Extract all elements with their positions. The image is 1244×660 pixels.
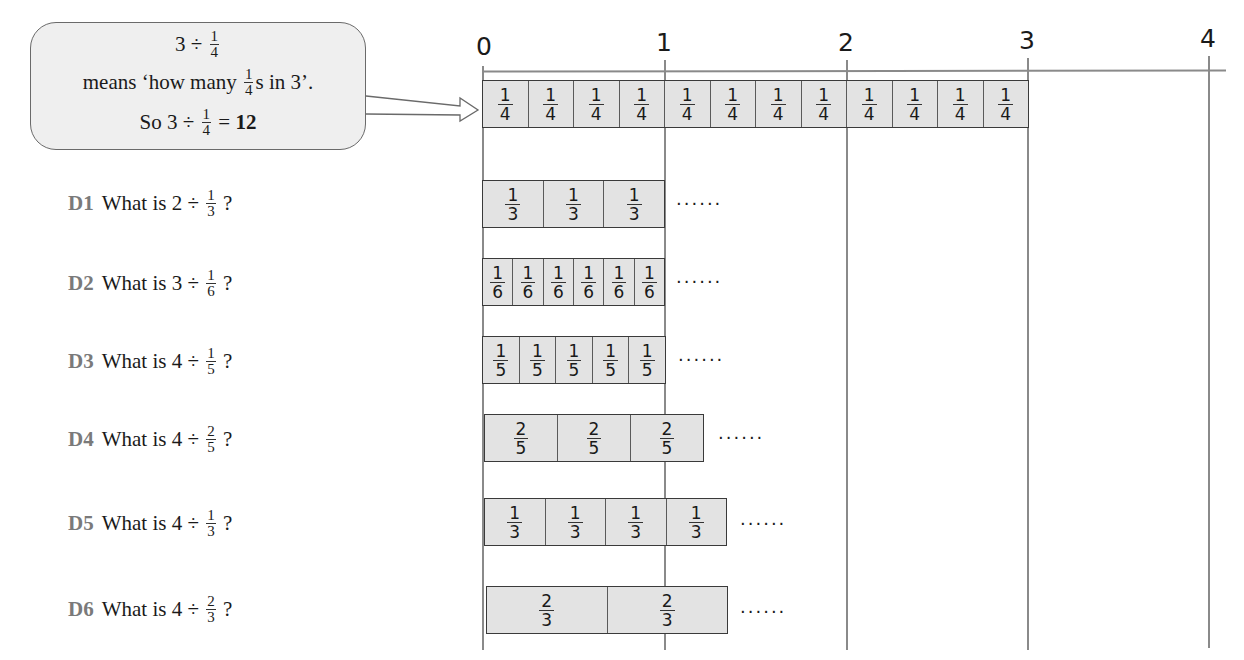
frac-num: 1 bbox=[206, 346, 216, 362]
bar-segment: 15 bbox=[519, 337, 556, 383]
number-line-axis bbox=[482, 69, 1226, 72]
question-id: D4 bbox=[68, 427, 94, 451]
callout-line-1: 3 ÷ 14 bbox=[31, 31, 365, 62]
frac-num: 1 bbox=[202, 107, 212, 123]
callout-text: means ‘how many bbox=[83, 70, 237, 94]
callout-text: s in 3’. bbox=[255, 70, 313, 94]
question-id: D3 bbox=[68, 349, 94, 373]
bar-segment: 13 bbox=[483, 181, 543, 227]
question-mark: ? bbox=[223, 349, 232, 373]
bar-segment: 16 bbox=[483, 259, 512, 305]
callout-text: 3 ÷ bbox=[175, 32, 202, 56]
fraction: 16 bbox=[206, 268, 216, 299]
tick-label-4: 4 bbox=[1200, 26, 1216, 51]
question-d2: D2What is 3 ÷ 16 ? bbox=[68, 270, 232, 301]
question-id: D2 bbox=[68, 271, 94, 295]
bar-segment: 16 bbox=[634, 259, 664, 305]
continuation-dots: ...... bbox=[740, 508, 786, 529]
example-bar: 14 14 14 14 14 14 14 14 14 14 14 14 bbox=[482, 80, 1029, 128]
bar-segment: 14 bbox=[892, 81, 938, 127]
question-mark: ? bbox=[223, 191, 232, 215]
frac-den: 4 bbox=[211, 45, 219, 60]
fraction: 23 bbox=[206, 594, 216, 625]
bar-segment: 14 bbox=[528, 81, 574, 127]
callout-text: So 3 ÷ bbox=[140, 110, 195, 134]
question-id: D6 bbox=[68, 597, 94, 621]
bar-segment: 13 bbox=[543, 181, 604, 227]
bar-segment: 16 bbox=[543, 259, 573, 305]
frac-num: 1 bbox=[206, 268, 216, 284]
gridline-3 bbox=[1027, 58, 1029, 650]
frac-den: 3 bbox=[207, 204, 215, 219]
bar-segment: 13 bbox=[666, 499, 727, 545]
bar-segment: 14 bbox=[983, 81, 1029, 127]
bar-segment: 15 bbox=[555, 337, 592, 383]
bar-d1: 13 13 13 bbox=[482, 180, 665, 228]
bar-d4: 25 25 25 bbox=[484, 414, 704, 462]
bar-segment: 14 bbox=[483, 81, 528, 127]
callout-answer: 12 bbox=[235, 110, 256, 134]
explanation-callout: 3 ÷ 14 means ‘how many 14s in 3’. So 3 ÷… bbox=[30, 22, 366, 150]
bar-segment: 23 bbox=[487, 587, 607, 633]
bar-d2: 16 16 16 16 16 16 bbox=[482, 258, 665, 306]
bar-segment: 14 bbox=[846, 81, 892, 127]
frac-den: 5 bbox=[207, 440, 215, 455]
question-mark: ? bbox=[223, 271, 232, 295]
bar-segment: 15 bbox=[628, 337, 665, 383]
question-text: What is 4 ÷ bbox=[102, 427, 199, 451]
frac-den: 3 bbox=[207, 524, 215, 539]
bar-segment: 14 bbox=[619, 81, 665, 127]
continuation-dots: ...... bbox=[678, 344, 724, 365]
bar-d5: 13 13 13 13 bbox=[484, 498, 727, 546]
frac-num: 1 bbox=[206, 188, 216, 204]
tick-label-0: 0 bbox=[476, 34, 492, 59]
fraction: 14 bbox=[210, 29, 220, 60]
continuation-dots: ...... bbox=[718, 422, 764, 443]
frac-den: 6 bbox=[207, 284, 215, 299]
bar-segment: 14 bbox=[801, 81, 847, 127]
fraction: 15 bbox=[206, 346, 216, 377]
tick-label-2: 2 bbox=[838, 30, 854, 55]
frac-den: 3 bbox=[207, 610, 215, 625]
question-d6: D6What is 4 ÷ 23 ? bbox=[68, 596, 232, 627]
question-d4: D4What is 4 ÷ 25 ? bbox=[68, 426, 232, 457]
question-text: What is 3 ÷ bbox=[102, 271, 199, 295]
bar-d6: 23 23 bbox=[486, 586, 728, 634]
bar-segment: 14 bbox=[664, 81, 710, 127]
question-text: What is 4 ÷ bbox=[102, 597, 199, 621]
bar-segment: 16 bbox=[512, 259, 542, 305]
bar-segment: 14 bbox=[755, 81, 801, 127]
tick-label-3: 3 bbox=[1019, 28, 1035, 53]
bar-segment: 23 bbox=[607, 587, 728, 633]
frac-num: 2 bbox=[206, 594, 216, 610]
gridline-4 bbox=[1208, 56, 1210, 648]
bar-segment: 13 bbox=[605, 499, 666, 545]
fraction: 13 bbox=[206, 508, 216, 539]
fraction: 14 bbox=[244, 67, 254, 98]
bar-segment: 13 bbox=[485, 499, 545, 545]
frac-den: 4 bbox=[203, 123, 211, 138]
continuation-dots: ...... bbox=[676, 266, 722, 287]
bar-segment: 14 bbox=[710, 81, 756, 127]
bar-segment: 13 bbox=[545, 499, 606, 545]
frac-num: 1 bbox=[210, 29, 220, 45]
question-d3: D3What is 4 ÷ 15 ? bbox=[68, 348, 232, 379]
bar-segment: 13 bbox=[603, 181, 664, 227]
tick-label-1: 1 bbox=[656, 30, 672, 55]
question-mark: ? bbox=[223, 427, 232, 451]
fraction: 25 bbox=[206, 424, 216, 455]
equals-sign: = bbox=[218, 110, 230, 134]
question-d1: D1What is 2 ÷ 13 ? bbox=[68, 190, 232, 221]
bar-segment: 14 bbox=[573, 81, 619, 127]
fraction: 13 bbox=[206, 188, 216, 219]
callout-line-2: means ‘how many 14s in 3’. bbox=[31, 69, 365, 100]
frac-num: 1 bbox=[206, 508, 216, 524]
fraction: 14 bbox=[202, 107, 212, 138]
question-text: What is 4 ÷ bbox=[102, 511, 199, 535]
question-d5: D5What is 4 ÷ 13 ? bbox=[68, 510, 232, 541]
continuation-dots: ...... bbox=[676, 188, 722, 209]
question-mark: ? bbox=[223, 597, 232, 621]
frac-num: 1 bbox=[244, 67, 254, 83]
bar-segment: 15 bbox=[483, 337, 519, 383]
question-text: What is 2 ÷ bbox=[102, 191, 199, 215]
